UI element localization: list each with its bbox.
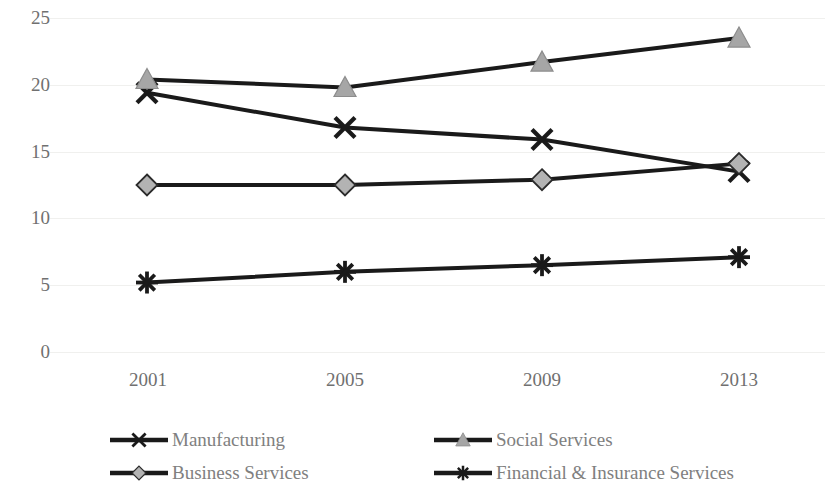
legend-item-financial-insurance-services[interactable]: Financial & Insurance Services: [432, 458, 734, 482]
legend-item-manufacturing[interactable]: Manufacturing: [108, 425, 285, 455]
x-tick-label: 2013: [704, 370, 774, 389]
plot-area: [0, 0, 830, 400]
diamond-icon: [108, 461, 170, 482]
line-chart: 25 20 15 10 5 0 2001 2005 2009 2013 Manu…: [0, 0, 830, 482]
asterisk-icon: [432, 461, 494, 482]
legend-item-business-services[interactable]: Business Services: [108, 458, 309, 482]
x-tick-label: 2009: [507, 370, 577, 389]
x-tick-label: 2005: [310, 370, 380, 389]
legend-label: Social Services: [496, 429, 613, 451]
legend-label: Business Services: [172, 462, 309, 482]
legend-label: Financial & Insurance Services: [496, 462, 734, 482]
legend-label: Manufacturing: [172, 429, 285, 451]
x-cross-icon: [108, 428, 170, 452]
legend-item-social-services[interactable]: Social Services: [432, 425, 613, 455]
x-tick-label: 2001: [113, 370, 183, 389]
chart-legend: Manufacturing Social Services Business S…: [0, 415, 830, 482]
triangle-icon: [432, 428, 494, 452]
